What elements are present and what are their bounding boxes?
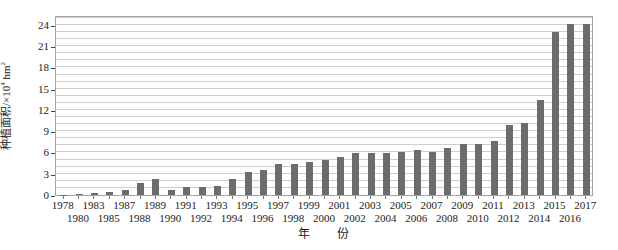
x-tick-label: 1983 <box>76 199 110 211</box>
bar-1992 <box>199 187 206 195</box>
x-tick-label: 2007 <box>415 199 449 211</box>
y-tick-mark <box>51 196 55 197</box>
x-tick-label: 1996 <box>246 212 280 224</box>
x-tick-label: 1992 <box>184 212 218 224</box>
x-tick-label: 1998 <box>276 212 310 224</box>
bar-2013 <box>521 123 528 195</box>
gridline <box>56 74 592 75</box>
bar-2012 <box>506 125 513 195</box>
x-tick-label: 2006 <box>399 212 433 224</box>
x-tick-label: 1994 <box>215 212 249 224</box>
planting-area-bar-chart: 种植面积/×104 hm2 年 份 0369121518212419781980… <box>0 0 618 250</box>
bar-2002 <box>352 153 359 195</box>
x-tick-label: 1987 <box>107 199 141 211</box>
gridline <box>56 109 592 110</box>
bar-2007 <box>429 152 436 195</box>
x-tick-label: 1980 <box>61 212 95 224</box>
gridline <box>56 38 592 39</box>
gridline <box>56 95 592 96</box>
x-tick-label: 1985 <box>92 212 126 224</box>
x-tick-label: 2000 <box>307 212 341 224</box>
x-tick-label: 2013 <box>507 199 541 211</box>
gridline <box>56 45 592 46</box>
bar-1999 <box>306 162 313 195</box>
x-tick-label: 2016 <box>553 212 587 224</box>
x-tick-label: 2004 <box>368 212 402 224</box>
y-tick-mark <box>51 90 55 91</box>
x-tick-label: 1990 <box>153 212 187 224</box>
gridline <box>56 24 592 25</box>
bar-1996 <box>260 170 267 195</box>
x-tick-label: 1988 <box>123 212 157 224</box>
bar-2017 <box>583 24 590 195</box>
x-tick-label: 2010 <box>461 212 495 224</box>
y-tick-label: 6 <box>21 146 49 159</box>
bar-2011 <box>491 141 498 195</box>
gridline <box>56 31 592 32</box>
gridline <box>56 116 592 117</box>
gridline <box>56 88 592 89</box>
y-tick-label: 21 <box>21 40 49 53</box>
bar-2014 <box>537 100 544 195</box>
bar-2004 <box>383 153 390 195</box>
gridline <box>56 17 592 18</box>
x-tick-label: 1978 <box>46 199 80 211</box>
x-tick-label: 1993 <box>199 199 233 211</box>
y-tick-label: 15 <box>21 83 49 96</box>
y-tick-mark <box>51 68 55 69</box>
x-axis-title: 年 份 <box>55 224 593 242</box>
bar-2010 <box>475 144 482 195</box>
bar-2016 <box>567 24 574 195</box>
x-tick-label: 2017 <box>568 199 602 211</box>
x-tick-label: 1999 <box>292 199 326 211</box>
bar-2005 <box>398 152 405 195</box>
bar-2000 <box>322 160 329 195</box>
x-tick-label: 1991 <box>169 199 203 211</box>
x-tick-label: 2001 <box>322 199 356 211</box>
x-tick-label: 2008 <box>430 212 464 224</box>
bar-1991 <box>183 187 190 196</box>
gridline <box>56 102 592 103</box>
y-tick-mark <box>51 175 55 176</box>
bar-2001 <box>337 157 344 195</box>
bar-1989 <box>152 179 159 195</box>
bar-2009 <box>460 144 467 195</box>
bar-1980 <box>76 194 83 195</box>
bar-1997 <box>275 164 282 195</box>
bar-2006 <box>414 150 421 195</box>
x-tick-label: 2009 <box>445 199 479 211</box>
y-tick-mark <box>51 47 55 48</box>
bar-1988 <box>137 183 144 195</box>
y-tick-mark <box>51 132 55 133</box>
bar-2015 <box>552 32 559 195</box>
y-tick-mark <box>51 26 55 27</box>
gridline <box>56 81 592 82</box>
bar-1993 <box>214 186 221 195</box>
y-axis-title: 种植面积/×104 hm2 <box>0 46 13 166</box>
x-tick-label: 2015 <box>538 199 572 211</box>
plot-area <box>55 16 593 196</box>
x-tick-label: 2002 <box>338 212 372 224</box>
bar-1985 <box>106 192 113 195</box>
y-tick-label: 18 <box>21 61 49 74</box>
gridline <box>56 52 592 53</box>
x-tick-label: 2014 <box>522 212 556 224</box>
gridline <box>56 66 592 67</box>
bar-2008 <box>444 148 451 195</box>
x-tick-label: 1997 <box>261 199 295 211</box>
bar-1994 <box>229 179 236 195</box>
y-tick-label: 3 <box>21 168 49 181</box>
y-tick-label: 24 <box>21 19 49 32</box>
bar-2003 <box>368 153 375 195</box>
y-tick-label: 9 <box>21 125 49 138</box>
x-tick-label: 2011 <box>476 199 510 211</box>
y-tick-label: 12 <box>21 104 49 117</box>
y-tick-mark <box>51 111 55 112</box>
bar-1995 <box>245 172 252 195</box>
gridline <box>56 59 592 60</box>
x-tick-label: 2005 <box>384 199 418 211</box>
x-tick-label: 2012 <box>491 212 525 224</box>
bar-1987 <box>122 190 129 195</box>
bar-1990 <box>168 190 175 195</box>
y-tick-mark <box>51 153 55 154</box>
